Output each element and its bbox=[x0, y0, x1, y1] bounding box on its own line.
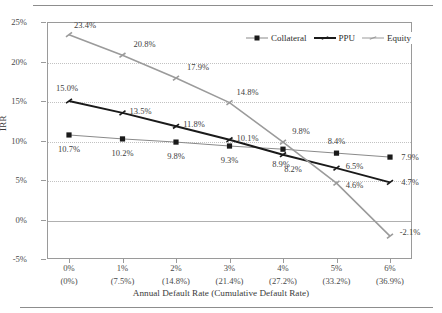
y-axis-tick-mark bbox=[41, 101, 46, 102]
x-tick-annual-rate: 4% bbox=[277, 263, 288, 273]
data-label-equity: 9.8% bbox=[292, 126, 310, 136]
legend-swatch-collateral-icon bbox=[246, 34, 268, 43]
x-tick-cumulative-rate: (7.5%) bbox=[93, 275, 153, 288]
legend-label: Collateral bbox=[271, 33, 307, 43]
x-axis-tick-mark bbox=[69, 259, 70, 263]
bottom-divider-rule bbox=[20, 307, 433, 308]
y-axis-tick-label: 15% bbox=[0, 96, 27, 106]
x-axis-tick-label: 2%(14.8%) bbox=[146, 262, 206, 287]
data-label-ppu: 11.8% bbox=[183, 119, 205, 129]
plot-area bbox=[47, 22, 412, 259]
legend-item-ppu[interactable]: PPU bbox=[314, 33, 356, 43]
legend-item-collateral[interactable]: Collateral bbox=[246, 33, 307, 43]
data-label-equity: -2.1% bbox=[400, 227, 421, 237]
x-tick-annual-rate: 6% bbox=[384, 263, 395, 273]
irr-sensitivity-chart: IRR 25%20%15%10%5%0%-5%0%(0%)1%(7.5%)2%(… bbox=[0, 0, 442, 313]
x-axis-tick-label: 5%(33.2%) bbox=[307, 262, 367, 287]
y-axis-tick-mark bbox=[41, 180, 46, 181]
y-axis-tick-mark bbox=[41, 62, 46, 63]
y-axis-tick-label: 25% bbox=[0, 17, 27, 27]
x-tick-annual-rate: 3% bbox=[224, 263, 235, 273]
x-tick-annual-rate: 5% bbox=[331, 263, 342, 273]
legend-item-equity[interactable]: Equity bbox=[362, 33, 411, 43]
legend-marker bbox=[255, 36, 260, 41]
x-axis-tick-mark bbox=[230, 259, 231, 263]
x-axis-tick-mark bbox=[337, 259, 338, 263]
data-label-equity: 4.6% bbox=[346, 180, 364, 190]
x-tick-annual-rate: 0% bbox=[63, 263, 74, 273]
y-axis-tick-label: 10% bbox=[0, 136, 27, 146]
data-label-ppu: 8.2% bbox=[284, 164, 302, 174]
zero-axis-line bbox=[48, 221, 411, 222]
data-label-collateral: 10.7% bbox=[58, 144, 80, 154]
data-label-ppu: 15.0% bbox=[56, 83, 78, 93]
x-tick-annual-rate: 1% bbox=[117, 263, 128, 273]
x-tick-cumulative-rate: (21.4%) bbox=[200, 275, 260, 288]
y-axis-tick-label: 0% bbox=[0, 215, 27, 225]
x-axis-tick-label: 4%(27.2%) bbox=[253, 262, 313, 287]
data-label-equity: 23.4% bbox=[74, 20, 96, 30]
x-axis-tick-mark bbox=[283, 259, 284, 263]
data-label-ppu: 4.7% bbox=[401, 177, 419, 187]
y-axis-tick-mark bbox=[41, 259, 46, 260]
data-label-ppu: 10.1% bbox=[237, 133, 259, 143]
y-axis-tick-label: -5% bbox=[0, 254, 27, 264]
chart-legend: CollateralPPUEquity bbox=[243, 32, 414, 44]
data-label-collateral: 9.3% bbox=[221, 155, 239, 165]
gridline-10% bbox=[48, 142, 411, 143]
x-tick-cumulative-rate: (33.2%) bbox=[307, 275, 367, 288]
x-axis-title: Annual Default Rate (Cumulative Default … bbox=[0, 288, 442, 298]
x-axis-tick-label: 3%(21.4%) bbox=[200, 262, 260, 287]
data-label-collateral: 10.2% bbox=[112, 148, 134, 158]
data-label-collateral: 8.4% bbox=[328, 136, 346, 146]
data-label-ppu: 6.5% bbox=[346, 161, 364, 171]
x-axis-tick-mark bbox=[390, 259, 391, 263]
x-axis-tick-mark bbox=[176, 259, 177, 263]
x-axis-tick-label: 1%(7.5%) bbox=[93, 262, 153, 287]
y-axis-tick-mark bbox=[41, 22, 46, 23]
x-tick-cumulative-rate: (0%) bbox=[39, 275, 99, 288]
x-axis-tick-label: 0%(0%) bbox=[39, 262, 99, 287]
y-axis-tick-label: 5% bbox=[0, 175, 27, 185]
legend-swatch-equity-icon bbox=[362, 34, 384, 43]
data-label-equity: 20.8% bbox=[134, 39, 156, 49]
legend-swatch-ppu-icon bbox=[314, 34, 336, 43]
legend-label: Equity bbox=[387, 33, 411, 43]
y-axis-title: IRR bbox=[0, 115, 8, 131]
y-axis-tick-label: 20% bbox=[0, 57, 27, 67]
data-label-collateral: 7.9% bbox=[401, 152, 419, 162]
data-label-equity: 17.9% bbox=[187, 62, 209, 72]
gridline-15% bbox=[48, 102, 411, 103]
x-tick-cumulative-rate: (27.2%) bbox=[253, 275, 313, 288]
top-divider-rule bbox=[33, 5, 433, 6]
x-axis-tick-label: 6%(36.9%) bbox=[360, 262, 420, 287]
y-axis-tick-mark bbox=[41, 141, 46, 142]
x-axis-tick-mark bbox=[123, 259, 124, 263]
x-tick-cumulative-rate: (14.8%) bbox=[146, 275, 206, 288]
data-label-equity: 14.8% bbox=[237, 87, 259, 97]
x-tick-annual-rate: 2% bbox=[170, 263, 181, 273]
x-tick-cumulative-rate: (36.9%) bbox=[360, 275, 420, 288]
data-label-ppu: 13.5% bbox=[130, 106, 152, 116]
y-axis-tick-mark bbox=[41, 220, 46, 221]
gridline-20% bbox=[48, 63, 411, 64]
legend-label: PPU bbox=[339, 33, 356, 43]
data-label-collateral: 9.8% bbox=[167, 151, 185, 161]
